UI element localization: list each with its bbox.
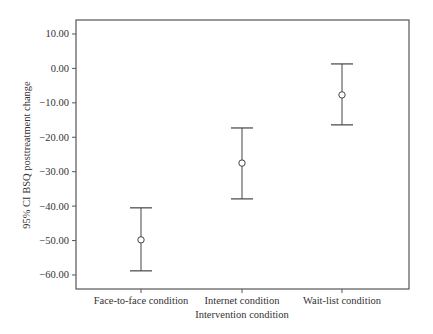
- x-tick-label-internet: Internet condition: [205, 295, 281, 306]
- y-axis: 10.000.00−10.00−20.00−30.00−40.00−50.00−…: [39, 28, 76, 280]
- error-bar-face-to-face-condition: [130, 208, 152, 271]
- y-tick-label: −50.00: [39, 235, 69, 246]
- x-tick-label-face-to-face: Face-to-face condition: [94, 295, 189, 306]
- y-tick-label: −20.00: [39, 132, 69, 143]
- x-axis-title: Intervention condition: [195, 309, 289, 320]
- error-bar-chart: 10.000.00−10.00−20.00−30.00−40.00−50.00−…: [0, 0, 433, 334]
- y-tick-label: −60.00: [39, 269, 69, 280]
- y-tick-label: 10.00: [45, 28, 69, 39]
- y-tick-label: −10.00: [39, 97, 69, 108]
- x-tick-label-wait-list: Wait-list condition: [303, 295, 382, 306]
- error-bars: [130, 64, 353, 271]
- x-axis: Face-to-face condition Internet conditio…: [94, 289, 382, 306]
- mean-marker: [239, 160, 245, 166]
- mean-marker: [339, 92, 345, 98]
- error-bar-wait-list-condition: [331, 64, 353, 125]
- y-tick-label: −40.00: [39, 201, 69, 212]
- y-tick-label: −30.00: [39, 166, 69, 177]
- y-tick-label: 0.00: [51, 63, 69, 74]
- error-bar-internet-condition: [231, 128, 253, 199]
- y-axis-title: 95% CI BSQ posttreatment change: [21, 81, 32, 229]
- mean-marker: [138, 237, 144, 243]
